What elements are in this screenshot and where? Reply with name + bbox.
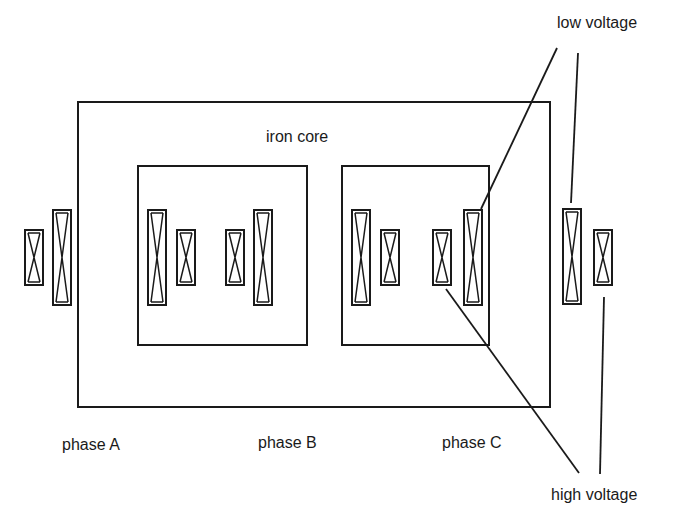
low-voltage-leader-phase-c <box>481 48 557 209</box>
lv-winding-phase-a-outer <box>53 210 71 305</box>
low-voltage-label: low voltage <box>557 14 637 32</box>
iron-core-label: iron core <box>266 128 328 146</box>
hv-winding-phase-b-right <box>381 230 399 285</box>
lv-winding-phase-a-inner <box>148 210 166 305</box>
hv-winding-phase-a-outer <box>25 230 43 285</box>
hv-winding-phase-b-left <box>226 230 244 285</box>
phase-b-label: phase B <box>258 434 317 452</box>
lv-winding-phase-c-inner <box>464 210 482 305</box>
high-voltage-label: high voltage <box>551 486 637 504</box>
phase-c-label: phase C <box>442 434 502 452</box>
hv-winding-phase-a-inner <box>177 230 195 285</box>
high-voltage-leader-outer <box>600 297 604 474</box>
lv-winding-phase-b-left <box>254 210 272 305</box>
lv-winding-phase-b-right <box>352 210 370 305</box>
hv-winding-phase-c-inner <box>433 230 451 285</box>
low-voltage-leader-outer <box>571 53 578 203</box>
phase-a-label: phase A <box>62 436 120 454</box>
lv-winding-phase-c-outer <box>563 209 581 304</box>
hv-winding-phase-c-outer <box>594 230 612 285</box>
